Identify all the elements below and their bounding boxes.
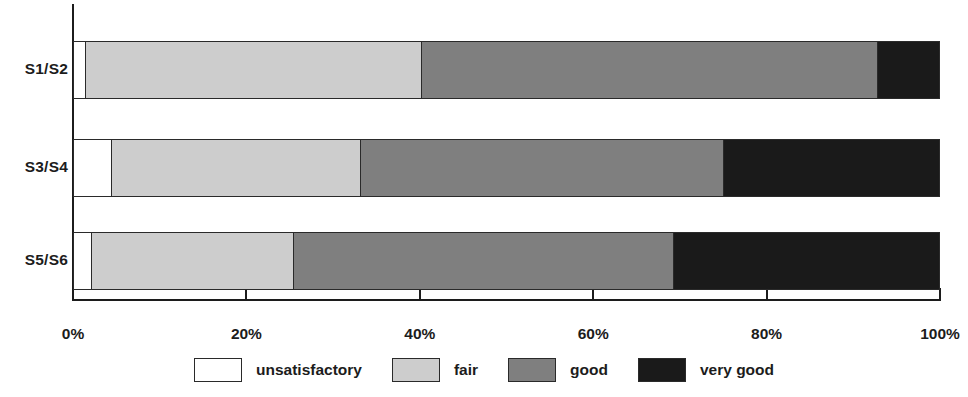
x-tick-label-20: 20% — [231, 325, 262, 343]
legend-label: good — [570, 361, 608, 379]
bar-segment-unsatisfactory — [74, 233, 91, 289]
legend-label: fair — [454, 361, 478, 379]
bar-segment-good — [421, 42, 877, 98]
bar-segment-good — [293, 233, 673, 289]
x-tick-label-40: 40% — [404, 325, 435, 343]
legend-item: fair — [392, 358, 478, 382]
category-label-row: S3/S4 — [0, 158, 68, 178]
x-tick-label-60: 60% — [578, 325, 609, 343]
stacked-bar-chart: S1/S2S3/S4S5/S6 0%20%40%60%80%100% unsat… — [0, 0, 968, 397]
bar-segment-fair — [111, 140, 360, 196]
stacked-bar — [73, 41, 940, 99]
category-label: S5/S6 — [4, 251, 68, 269]
legend-item: very good — [638, 358, 774, 382]
category-label: S1/S2 — [4, 60, 68, 78]
x-tick-label-0: 0% — [62, 325, 84, 343]
bar-segment-good — [360, 140, 722, 196]
bar-segment-very-good — [877, 42, 939, 98]
legend-swatch-very-good — [638, 358, 686, 382]
legend-swatch-fair — [392, 358, 440, 382]
category-label-row: S1/S2 — [0, 60, 68, 80]
legend-swatch-good — [508, 358, 556, 382]
bar-segment-unsatisfactory — [74, 42, 85, 98]
legend-item: good — [508, 358, 608, 382]
stacked-bar — [73, 139, 940, 197]
bar-segment-fair — [85, 42, 421, 98]
legend-label: unsatisfactory — [256, 361, 362, 379]
bar-segment-very-good — [723, 140, 939, 196]
x-axis-line — [72, 299, 941, 301]
x-tick-label-100: 100% — [920, 325, 960, 343]
category-label: S3/S4 — [4, 158, 68, 176]
bar-segment-very-good — [673, 233, 939, 289]
legend-label: very good — [700, 361, 774, 379]
legend-swatch-unsatisfactory — [194, 358, 242, 382]
stacked-bar — [73, 232, 940, 290]
x-tick-label-80: 80% — [751, 325, 782, 343]
legend-item: unsatisfactory — [194, 358, 362, 382]
category-label-row: S5/S6 — [0, 251, 68, 271]
bar-segment-fair — [91, 233, 293, 289]
bar-segment-unsatisfactory — [74, 140, 111, 196]
chart-legend: unsatisfactoryfairgoodvery good — [0, 358, 968, 382]
